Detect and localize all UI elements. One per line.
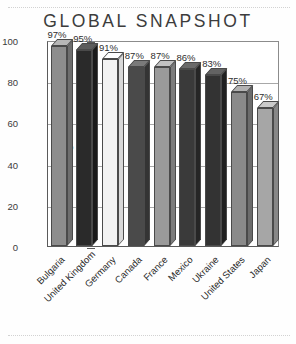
bar-side-face [170,60,176,246]
bar-front-face [231,92,247,247]
plot-area: Percentage 020406080100 97%95%91%87%87%8… [47,41,279,247]
bar-value-label: 97% [48,29,67,40]
bar [179,69,195,246]
bar [205,75,221,246]
chart-figure: GLOBAL SNAPSHOT Percentage 020406080100 … [0,0,296,344]
bar [76,50,92,246]
bar-value-label: 75% [228,75,247,86]
bar-front-face [76,50,92,246]
y-axis-tick-label: 60 [0,118,18,129]
bar-value-label: 87% [151,50,170,61]
y-axis-tick-label: 40 [0,160,18,171]
bar-front-face [205,75,221,246]
y-axis-tick-label: 80 [0,77,18,88]
bar-side-face [247,85,253,246]
bar-value-label: 86% [176,52,195,63]
bar-side-face [221,68,227,246]
bar [128,67,144,246]
bar-value-label: 83% [202,58,221,69]
bar-front-face [154,67,170,246]
bar-front-face [51,46,67,246]
bar-side-face [195,62,201,246]
bar-side-face [144,60,150,246]
bar [231,92,247,247]
scan-rule-top [8,7,290,8]
bar [257,108,273,246]
bar-value-label: 67% [254,91,273,102]
bar-value-label: 87% [125,50,144,61]
page-title: GLOBAL SNAPSHOT [0,11,296,32]
bar [51,46,67,246]
bar [102,59,118,246]
bar-side-face [273,101,279,246]
y-axis-tick-label: 100 [0,36,18,47]
scan-rule-bottom [8,335,290,336]
y-axis-tick-label: 20 [0,201,18,212]
bar-front-face [257,108,273,246]
bar-side-face [67,40,73,246]
bar-value-label: 91% [99,42,118,53]
bar-front-face [179,69,195,246]
bar-front-face [128,67,144,246]
bar-side-face [92,44,98,246]
y-axis-tick-label: 0 [0,242,18,253]
bar-value-label: 95% [73,33,92,44]
bar-front-face [102,59,118,246]
bar-side-face [118,52,124,246]
bar [154,67,170,246]
